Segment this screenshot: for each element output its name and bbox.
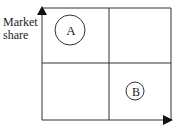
- y-axis-label-line1: Market: [3, 15, 38, 29]
- y-axis-arrow-icon: [37, 6, 47, 15]
- circle-a-label: A: [66, 23, 76, 38]
- market-share-matrix: Market share A B: [0, 0, 177, 129]
- circle-b: B: [126, 82, 144, 100]
- circle-b-label: B: [132, 85, 140, 99]
- y-axis-label-line2: share: [3, 28, 28, 42]
- circle-a: A: [55, 15, 85, 45]
